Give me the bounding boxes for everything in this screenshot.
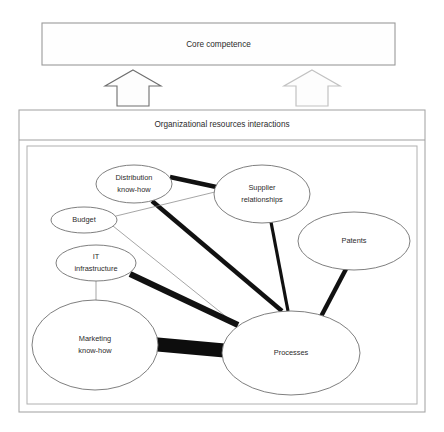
node-processes[interactable]: Processes: [222, 311, 360, 395]
core-competence-label: Core competence: [186, 40, 251, 49]
node-marketing[interactable]: Marketing know-how: [32, 300, 158, 390]
arrow-right: [284, 70, 340, 106]
node-budget[interactable]: Budget: [51, 207, 117, 233]
node-it-infrastructure[interactable]: IT infrastructure: [56, 245, 136, 281]
diagram-canvas: Core competence Organizational resources…: [0, 0, 444, 432]
node-distribution[interactable]: Distribution know-how: [96, 165, 172, 203]
node-it-infrastructure-label-line2: infrastructure: [74, 264, 117, 273]
core-competence-box: Core competence: [42, 23, 395, 65]
core-competence-diagram: Core competence Organizational resources…: [0, 0, 444, 432]
panel-title: Organizational resources interactions: [154, 120, 289, 129]
node-patents[interactable]: Patents: [298, 212, 410, 270]
node-it-infrastructure-label-line1: IT: [93, 252, 100, 261]
node-distribution-label-line1: Distribution: [116, 173, 153, 182]
node-supplier-label-line1: Supplier: [248, 183, 276, 192]
upward-arrow-icon-left: [105, 70, 161, 106]
edge-marketing-processes: [152, 344, 230, 351]
node-distribution-label-line2: know-how: [117, 185, 151, 194]
upward-arrow-icon-right: [284, 70, 340, 106]
node-budget-label: Budget: [72, 215, 95, 224]
node-patents-label: Patents: [341, 236, 366, 245]
node-supplier-label-line2: relationships: [241, 195, 283, 204]
node-marketing-label-line1: Marketing: [79, 334, 111, 343]
node-supplier[interactable]: Supplier relationships: [214, 165, 310, 223]
node-marketing-label-line2: know-how: [78, 346, 112, 355]
node-processes-label: Processes: [274, 348, 309, 357]
arrow-left: [105, 70, 161, 106]
